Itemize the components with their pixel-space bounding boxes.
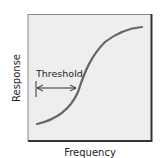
x-axis-label: Frequency [64, 147, 116, 158]
threshold-label: Threshold [35, 68, 83, 79]
threshold-diagram: Threshold Response Frequency [0, 0, 167, 158]
y-axis-label: Response [11, 54, 22, 102]
